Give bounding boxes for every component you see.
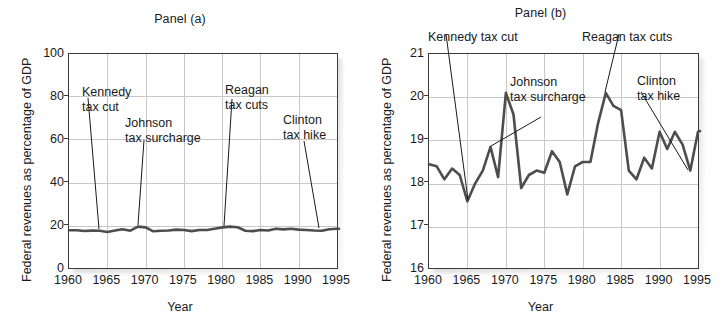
panel-a-annotation-reagan: Reagan tax cuts bbox=[225, 83, 269, 112]
panel-b-xtick-1965: 1965 bbox=[452, 273, 480, 287]
panel-a-annotation-kennedy-line1: Kennedy bbox=[82, 85, 131, 100]
panel-b-xtick-1985: 1985 bbox=[606, 273, 634, 287]
panel-a-reagan-leader bbox=[224, 99, 232, 226]
panel-a-xtick-1985: 1985 bbox=[245, 273, 273, 287]
panel-b-kennedy-leader bbox=[446, 34, 468, 200]
panel-a-xtick-1975: 1975 bbox=[169, 273, 197, 287]
panel-b-annotation-clinton-line1: Clinton bbox=[637, 74, 680, 89]
panel-a-xtick-1980: 1980 bbox=[207, 273, 235, 287]
panel-b-ytick-21: 21 bbox=[392, 46, 424, 60]
panel-b-annotation-kennedy: Kennedy tax cut bbox=[428, 30, 518, 45]
panel-a-annotation-kennedy: Kennedy tax cut bbox=[82, 85, 131, 114]
panel-a-ytick-100: 100 bbox=[24, 46, 64, 60]
panel-b-xtick-1970: 1970 bbox=[491, 273, 519, 287]
panel-b-annotation-reagan-line1: Reagan tax cuts bbox=[582, 30, 672, 45]
panel-b-ytick-18: 18 bbox=[392, 175, 424, 189]
panel-a-ytick-60: 60 bbox=[24, 132, 64, 146]
panel-a-annotation-clinton: Clinton tax hike bbox=[283, 113, 326, 142]
panel-b-x-axis-title: Year bbox=[360, 300, 721, 314]
panel-a-annotation-reagan-line2: tax cuts bbox=[225, 98, 269, 113]
panel-b-ytick-17: 17 bbox=[392, 218, 424, 232]
panel-a-annotation-clinton-line2: tax hike bbox=[283, 128, 326, 143]
figure-root: Panel (a) Federal revenues as percentage… bbox=[0, 0, 721, 325]
panel-a-annotation-kennedy-line2: tax cut bbox=[82, 100, 131, 115]
panel-a-xtick-1990: 1990 bbox=[284, 273, 312, 287]
panel-b: Panel (b) Federal revenues as percentage… bbox=[360, 0, 721, 325]
panel-b-xtick-1995: 1995 bbox=[683, 273, 711, 287]
panel-a-kennedy-leader bbox=[88, 98, 99, 229]
panel-b-annotation-kennedy-line1: Kennedy tax cut bbox=[428, 30, 518, 45]
panel-a-x-axis-title: Year bbox=[0, 300, 360, 314]
panel-b-annotation-johnson: Johnson tax surcharge bbox=[510, 75, 586, 104]
panel-a-annotation-johnson-line2: tax surcharge bbox=[125, 131, 201, 146]
panel-a-xtick-1995: 1995 bbox=[322, 273, 350, 287]
panel-a-annotation-reagan-line1: Reagan bbox=[225, 83, 269, 98]
panel-a-xtick-1970: 1970 bbox=[131, 273, 159, 287]
panel-a-xtick-1965: 1965 bbox=[92, 273, 120, 287]
panel-b-ytick-20: 20 bbox=[392, 89, 424, 103]
panel-a-xtick-1960: 1960 bbox=[54, 273, 82, 287]
panel-b-clinton-leader bbox=[641, 92, 688, 170]
panel-b-annotation-johnson-line2: tax surcharge bbox=[510, 90, 586, 105]
panel-a-johnson-leader bbox=[138, 140, 144, 225]
panel-a-annotation-johnson: Johnson tax surcharge bbox=[125, 116, 201, 145]
panel-b-xtick-1980: 1980 bbox=[568, 273, 596, 287]
panel-b-xtick-1975: 1975 bbox=[529, 273, 557, 287]
panel-a-annotation-clinton-line1: Clinton bbox=[283, 113, 326, 128]
panel-a: Panel (a) Federal revenues as percentage… bbox=[0, 0, 360, 325]
panel-b-annotation-clinton-line2: tax hike bbox=[637, 89, 680, 104]
panel-a-ytick-80: 80 bbox=[24, 89, 64, 103]
panel-b-title: Panel (b) bbox=[360, 6, 721, 20]
panel-a-ytick-20: 20 bbox=[24, 218, 64, 232]
panel-b-ytick-19: 19 bbox=[392, 132, 424, 146]
panel-b-xtick-1990: 1990 bbox=[645, 273, 673, 287]
panel-a-ytick-40: 40 bbox=[24, 175, 64, 189]
panel-a-title: Panel (a) bbox=[0, 12, 360, 26]
panel-b-annotation-reagan: Reagan tax cuts bbox=[582, 30, 672, 45]
panel-a-annotation-johnson-line1: Johnson bbox=[125, 116, 201, 131]
panel-b-annotation-clinton: Clinton tax hike bbox=[637, 74, 680, 103]
panel-a-clinton-leader bbox=[304, 141, 319, 228]
panel-b-annotation-johnson-line1: Johnson bbox=[510, 75, 586, 90]
panel-b-xtick-1960: 1960 bbox=[414, 273, 442, 287]
panel-b-johnson-leader bbox=[491, 117, 541, 146]
